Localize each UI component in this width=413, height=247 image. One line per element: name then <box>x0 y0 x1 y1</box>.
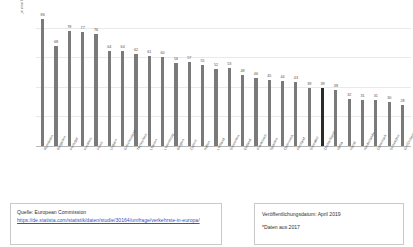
bar-column: 30 <box>383 6 396 146</box>
bar-column: 43 <box>289 6 302 146</box>
bar-column: 52 <box>209 6 222 146</box>
bar-value-label: 28 <box>400 100 404 104</box>
bar <box>161 57 164 146</box>
source-label: Quelle: European Commission <box>17 209 216 217</box>
x-tick: Slowenien <box>223 147 236 199</box>
bar <box>361 100 364 146</box>
bar-value-label: 68 <box>54 41 58 45</box>
bar <box>188 62 191 146</box>
x-tick: Spanien <box>263 147 276 199</box>
bar <box>388 102 391 146</box>
bar-value-label: 77 <box>81 27 85 31</box>
bar <box>41 19 44 146</box>
bar-column: 76 <box>89 6 102 146</box>
bar-value-label: 30 <box>387 97 391 101</box>
bar-value-label: 64 <box>121 46 125 50</box>
bar-column: 61 <box>143 6 156 146</box>
y-axis-label: je eine Million Einwohner <box>20 0 24 40</box>
bar-column: 44 <box>276 6 289 146</box>
bar-column: 57 <box>183 6 196 146</box>
bar <box>68 31 71 146</box>
x-tick: Frankreich <box>249 147 262 199</box>
x-axis-tick-labels: RumänienBulgarienPortugalKroatienPolenUn… <box>36 147 409 199</box>
bar-column: 60 <box>156 6 169 146</box>
bar-value-label: 76 <box>94 29 98 33</box>
x-tick: Zypern <box>183 147 196 199</box>
bar <box>294 82 297 146</box>
bar <box>321 88 324 146</box>
x-tick: Finnland <box>289 147 302 199</box>
bar <box>81 32 84 146</box>
bar <box>281 81 284 146</box>
source-link[interactable]: https://de.statista.com/statistik/daten/… <box>17 217 216 225</box>
bar-value-label: 39 <box>307 83 311 87</box>
bar <box>94 34 97 146</box>
source-box: Quelle: European Commission https://de.s… <box>10 203 222 245</box>
bar <box>374 100 377 146</box>
x-tick: Schweden <box>383 147 396 199</box>
x-tick: Luxemburg <box>156 147 169 199</box>
bar-value-label: 38 <box>334 85 338 89</box>
chart-card: je eine Million Einwohner 86687877766464… <box>0 0 413 247</box>
bar-column: 31 <box>369 6 382 146</box>
bar-value-label: 39 <box>321 83 325 87</box>
bar <box>108 51 111 146</box>
bar-value-label: 60 <box>161 52 165 56</box>
bar-value-label: 31 <box>360 95 364 99</box>
bar-column: 86 <box>36 6 49 146</box>
bar-value-label: 43 <box>294 77 298 81</box>
bar-column: 28 <box>396 6 409 146</box>
bar <box>228 68 231 146</box>
bar-value-label: 32 <box>347 94 351 98</box>
x-tick: Bulgarien <box>49 147 62 199</box>
bar <box>268 80 271 147</box>
x-tick: Österreich <box>276 147 289 199</box>
bar <box>241 75 244 146</box>
x-tick: Niederlande <box>356 147 369 199</box>
bar-column: 32 <box>343 6 356 146</box>
bar <box>148 56 151 146</box>
bar-column: 38 <box>329 6 342 146</box>
x-tick: Estland <box>236 147 249 199</box>
bar-column: 55 <box>196 6 209 146</box>
x-tick: Tschechien <box>129 147 142 199</box>
bar-column: 77 <box>76 6 89 146</box>
x-tick: Litauen <box>143 147 156 199</box>
bar-column: 64 <box>103 6 116 146</box>
plot-area: je eine Million Einwohner 86687877766464… <box>22 6 411 146</box>
bar-column: 31 <box>356 6 369 146</box>
bar-value-label: 48 <box>241 70 245 74</box>
bar-column: 39 <box>316 6 329 146</box>
bar-value-label: 86 <box>41 14 45 18</box>
bar-column: 68 <box>49 6 62 146</box>
bar <box>121 51 124 146</box>
x-tick: Slowakei <box>303 147 316 199</box>
x-tick: Dänemark <box>369 147 382 199</box>
x-tick: Belgien <box>169 147 182 199</box>
bar-column: 46 <box>249 6 262 146</box>
bar-column: 62 <box>129 6 142 146</box>
bar-value-label: 53 <box>227 63 231 67</box>
x-tick: Rumänien <box>36 147 49 199</box>
x-tick: Ungarn <box>103 147 116 199</box>
bar <box>348 99 351 146</box>
data-note: *Daten aus 2017 <box>262 224 398 232</box>
x-tick: Lettland <box>209 147 222 199</box>
bar-column: 45 <box>263 6 276 146</box>
bar-column: 56 <box>169 6 182 146</box>
bar-value-label: 57 <box>187 57 191 61</box>
bar <box>401 105 404 146</box>
x-tick: Italien <box>196 147 209 199</box>
bar-value-label: 31 <box>374 95 378 99</box>
bar <box>334 90 337 146</box>
bar <box>54 46 57 146</box>
bar-column: 53 <box>223 6 236 146</box>
x-tick: Portugal <box>63 147 76 199</box>
bar-value-label: 62 <box>134 49 138 53</box>
bar-column: 48 <box>236 6 249 146</box>
bar-value-label: 56 <box>174 58 178 62</box>
bar-value-label: 52 <box>214 64 218 68</box>
bar <box>214 69 217 146</box>
bar-series: 8668787776646462616056575552534846454443… <box>36 6 409 146</box>
bar-column: 78 <box>63 6 76 146</box>
